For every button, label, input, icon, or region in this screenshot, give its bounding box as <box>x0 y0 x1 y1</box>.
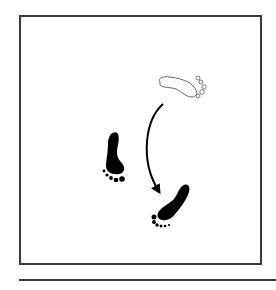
footprint-filled-destination-icon <box>152 185 190 228</box>
movement-arrow-icon <box>147 104 163 190</box>
separator-rule <box>19 279 276 281</box>
footprint-filled-support-icon <box>103 132 125 182</box>
footprint-outline-icon <box>159 76 206 98</box>
footstep-diagram <box>0 0 276 290</box>
